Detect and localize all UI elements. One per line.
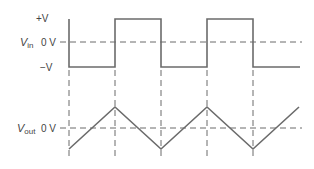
vout-label: Vout bbox=[17, 122, 36, 136]
time-guides bbox=[69, 70, 253, 160]
vin-square-wave bbox=[69, 19, 300, 67]
vin-label: Vin bbox=[20, 36, 34, 50]
vin-high-label: +V bbox=[36, 13, 49, 24]
waveform-diagram: +V Vin 0 V −V Vout 0 V bbox=[0, 0, 314, 169]
vin-low-label: −V bbox=[40, 62, 53, 73]
vout-zero-label: 0 V bbox=[41, 123, 56, 134]
vin-zero-label: 0 V bbox=[41, 37, 56, 48]
